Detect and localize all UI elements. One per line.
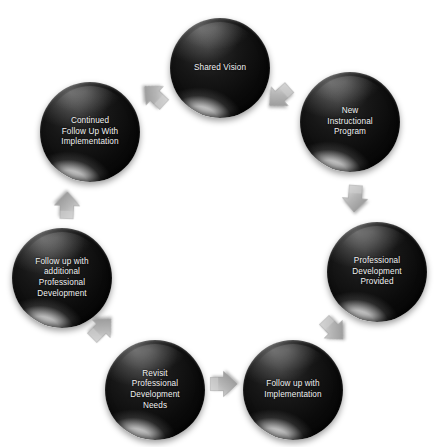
node-label: Follow up with additional Professional D… — [19, 257, 105, 299]
node-label: Professional Development Provided — [334, 256, 420, 288]
node-continued-follow-up-with-implementation[interactable]: Continued Follow Up With Implementation — [40, 82, 140, 182]
node-label: Follow up with Implementation — [250, 379, 336, 400]
node-shared-vision[interactable]: Shared Vision — [170, 18, 270, 118]
node-label: Revisit Professional Development Needs — [112, 369, 198, 411]
cycle-diagram: Shared Vision New Instructional Program … — [0, 0, 437, 447]
node-professional-development-provided[interactable]: Professional Development Provided — [327, 222, 427, 322]
node-label: Continued Follow Up With Implementation — [47, 116, 133, 148]
arrow-left-icon — [207, 369, 239, 399]
node-follow-up-with-implementation[interactable]: Follow up with Implementation — [243, 340, 343, 440]
node-revisit-professional-development-needs[interactable]: Revisit Professional Development Needs — [105, 340, 205, 440]
node-label: Shared Vision — [177, 63, 263, 74]
arrow-up-right-icon — [133, 74, 177, 118]
arrow-up-icon — [51, 189, 82, 222]
arrow-down-icon — [339, 181, 371, 215]
node-new-instructional-program[interactable]: New Instructional Program — [300, 72, 400, 172]
node-label: New Instructional Program — [307, 106, 393, 138]
